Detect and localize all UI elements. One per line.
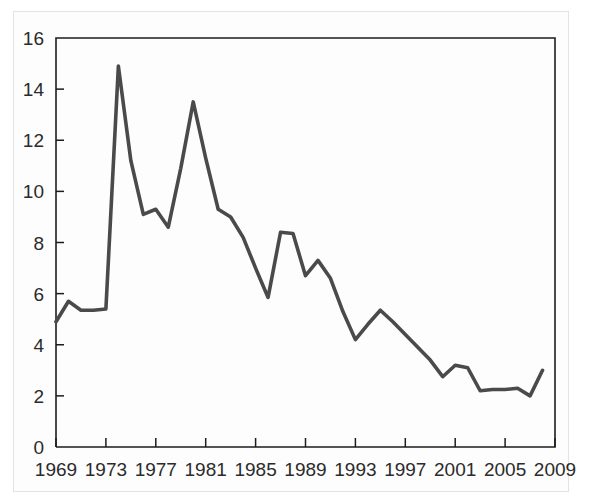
figure-container: 0246810121416 19691973197719811985198919… (0, 0, 591, 504)
x-tick-label: 2001 (434, 459, 476, 480)
y-tick-label: 4 (33, 335, 44, 356)
y-tick-label: 2 (33, 386, 44, 407)
y-tick-label: 12 (23, 130, 44, 151)
x-tick-label: 1997 (384, 459, 426, 480)
x-tick-label: 1993 (334, 459, 376, 480)
x-tick-label: 1977 (135, 459, 177, 480)
x-tick-label: 1981 (185, 459, 227, 480)
y-tick-label: 14 (23, 79, 45, 100)
x-tick-label: 1973 (85, 459, 127, 480)
x-tick-label: 2009 (534, 459, 576, 480)
y-tick-label: 0 (33, 437, 44, 458)
chart-svg: 0246810121416 19691973197719811985198919… (0, 0, 591, 504)
line-chart: 0246810121416 19691973197719811985198919… (0, 0, 591, 504)
plot-border (56, 38, 555, 447)
data-line-1 (56, 66, 543, 396)
y-tick-label: 8 (33, 233, 44, 254)
y-tick-label: 6 (33, 284, 44, 305)
x-tick-label: 1985 (234, 459, 276, 480)
x-tick-label: 1969 (35, 459, 77, 480)
x-tick-label: 1989 (284, 459, 326, 480)
x-axis: 1969197319771981198519891993199720012005… (35, 438, 576, 480)
plot-frame (56, 38, 555, 447)
y-tick-label: 16 (23, 28, 44, 49)
data-series (56, 66, 543, 396)
x-tick-label: 2005 (484, 459, 526, 480)
y-axis: 0246810121416 (23, 28, 64, 458)
y-tick-label: 10 (23, 181, 44, 202)
